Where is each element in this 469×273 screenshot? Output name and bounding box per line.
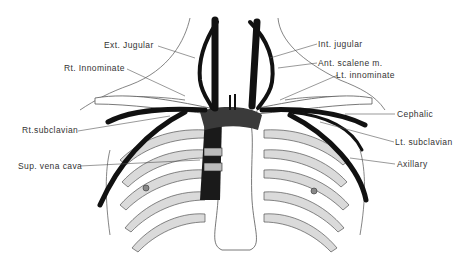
label-lt-innominate: Lt. innominate <box>336 70 395 80</box>
left-nipple <box>311 188 317 194</box>
label-rt-subclavian: Rt.subclavian <box>22 125 78 135</box>
label-cephalic: Cephalic <box>397 109 433 119</box>
label-rt-innominate: Rt. Innominate <box>64 63 125 73</box>
label-ext-jugular: Ext. Jugular <box>104 40 154 50</box>
label-axillary: Axillary <box>397 159 428 169</box>
label-lt-subclavian: Lt. subclavian <box>395 137 453 147</box>
anatomy-diagram: Ext. Jugular Rt. Innominate Rt.subclavia… <box>0 0 469 273</box>
label-int-jugular: Int. jugular <box>318 39 363 49</box>
label-ant-scalene: Ant. scalene m. <box>318 58 383 68</box>
right-nipple <box>143 185 149 191</box>
label-sup-vena-cava: Sup. vena cava <box>18 161 82 171</box>
